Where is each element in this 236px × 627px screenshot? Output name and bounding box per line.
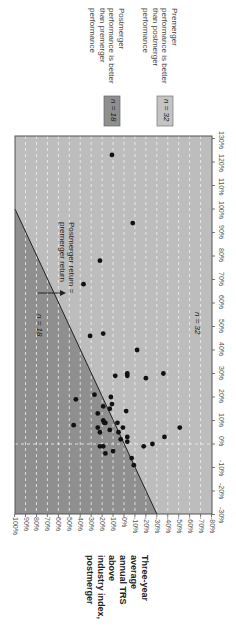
x-tick-label: 110% — [218, 178, 225, 195]
data-point — [131, 463, 136, 468]
data-point — [95, 411, 100, 416]
data-point — [118, 437, 123, 442]
data-point — [162, 435, 167, 440]
legend-line: than postmerger — [151, 8, 161, 84]
y-tick-label: 50% — [66, 517, 73, 531]
data-point — [81, 282, 86, 287]
y-axis-title-line: Three-year — [139, 555, 150, 619]
reference-line-label: Postmerger return = premerger return — [58, 222, 76, 293]
data-point — [110, 153, 115, 158]
data-point — [102, 420, 107, 425]
x-tick-label: 100% — [218, 201, 225, 219]
y-tick-label: 60% — [55, 517, 62, 531]
y-tick-label: -30% — [154, 517, 161, 533]
data-point — [95, 425, 100, 430]
legend-item-premerger: Premerger performance is better than pos… — [141, 8, 179, 84]
data-point — [101, 331, 106, 336]
y-tick-label: -70% — [198, 517, 205, 533]
x-tick-label: 40% — [218, 342, 225, 356]
x-tick-label: -30% — [218, 507, 225, 523]
y-axis-title: Three-yearaverageannual TRSaboveindustry… — [84, 555, 150, 619]
y-tick-label: 90% — [23, 517, 30, 531]
data-point — [110, 402, 115, 407]
y-tick-label: -10% — [132, 517, 139, 533]
x-tick-label: 10% — [218, 413, 225, 427]
data-point — [115, 420, 120, 425]
y-axis-title-line: industry index, — [95, 555, 106, 619]
legend-line: performance is better — [107, 8, 117, 84]
data-point — [161, 371, 166, 376]
legend-item-postmerger: Postmerger performance is better than pr… — [88, 8, 126, 84]
data-point — [125, 373, 130, 378]
y-tick-label: -20% — [143, 517, 150, 533]
legend-line: Premerger — [170, 8, 180, 84]
x-tick-label: 70% — [218, 272, 225, 286]
y-tick-label: 20% — [99, 517, 106, 531]
data-point — [108, 395, 113, 400]
x-tick-label: 20% — [218, 389, 225, 403]
y-tick-label: 0% — [121, 517, 128, 527]
y-tick-label: 70% — [44, 517, 51, 531]
data-point — [116, 430, 121, 435]
y-tick-label: 10% — [110, 517, 117, 531]
legend-badge-label-n18: n = 18 — [109, 99, 119, 121]
data-point — [98, 430, 103, 435]
legend-badge-label-n32: n = 32 — [162, 99, 172, 121]
data-point — [73, 397, 78, 402]
x-tick-label: 50% — [218, 319, 225, 333]
data-point — [98, 258, 103, 263]
y-axis-title-line: average — [128, 555, 139, 619]
x-tick-label: 60% — [218, 295, 225, 309]
data-point — [113, 373, 118, 378]
data-point — [125, 435, 130, 440]
data-point — [135, 348, 140, 353]
legend-line: performance is better — [160, 8, 170, 84]
data-point — [71, 423, 76, 428]
data-point — [103, 451, 108, 456]
y-tick-label: 80% — [33, 517, 40, 531]
y-axis-title-line: above — [106, 555, 117, 619]
x-tick-label: -10% — [218, 460, 225, 476]
x-tick-label: 0% — [218, 436, 225, 446]
y-axis-title-line: annual TRS — [117, 555, 128, 619]
data-point — [141, 444, 146, 449]
data-point — [101, 444, 106, 449]
data-point — [101, 404, 106, 409]
n-lower-label: n = 32 — [193, 312, 203, 334]
x-tick-label: -20% — [218, 483, 225, 499]
data-point — [129, 456, 134, 461]
y-tick-label: 40% — [77, 517, 84, 531]
y-tick-label: 30% — [88, 517, 95, 531]
reference-line-label-2: premerger return — [58, 222, 67, 293]
reference-line-label-1: Postmerger return = — [67, 222, 76, 293]
n-upper-label: n = 18 — [35, 314, 45, 336]
legend-line: than premerger — [98, 8, 108, 84]
legend-line: performance — [88, 8, 98, 84]
legend-line: performance — [141, 8, 151, 84]
x-tick-label: 30% — [218, 366, 225, 380]
data-point — [177, 425, 182, 430]
data-point — [111, 449, 116, 454]
y-tick-label: 100% — [12, 517, 19, 535]
x-tick-label: 80% — [218, 248, 225, 262]
data-point — [150, 442, 155, 447]
data-point — [143, 376, 148, 381]
legend-line: Postmerger — [117, 8, 127, 84]
data-point — [107, 428, 112, 433]
data-point — [125, 439, 130, 444]
data-point — [130, 221, 135, 226]
data-point — [92, 392, 97, 397]
y-tick-label: -50% — [176, 517, 183, 533]
y-axis-title-line: postmerger — [84, 555, 95, 619]
data-point — [88, 334, 93, 339]
data-point — [124, 409, 129, 414]
y-tick-label: -80% — [209, 517, 216, 533]
x-tick-label: 120% — [218, 154, 225, 172]
data-point — [107, 406, 112, 411]
x-tick-label: 90% — [218, 225, 225, 239]
y-tick-label: -40% — [165, 517, 172, 533]
scatter-chart: -30%-20%-10%0%10%20%30%40%50%60%70%80%90… — [0, 0, 236, 627]
y-tick-label: -60% — [187, 517, 194, 533]
x-tick-label: 130% — [218, 131, 225, 149]
data-point — [121, 425, 126, 430]
